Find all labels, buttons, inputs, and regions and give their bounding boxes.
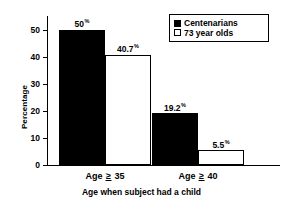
tick-mark [43, 84, 47, 85]
legend-item-73-year-olds: 73 year olds [174, 29, 264, 38]
bar-value-label: 19.2% [164, 103, 186, 112]
tick-mark [43, 30, 47, 31]
tick-label: 50 [31, 25, 40, 34]
bar-73-year-olds-group-0: 40.7% [105, 55, 151, 165]
legend-label-centenarians: Centenarians [184, 19, 238, 28]
filled-square-icon [174, 20, 181, 27]
tick-label: 40 [31, 52, 40, 61]
tick-label: 10 [31, 134, 40, 143]
bar-centenarians-group-0: 50% [59, 30, 105, 165]
legend: Centenarians 73 year olds [169, 14, 269, 42]
tick-mark [43, 165, 47, 166]
bar-value-label: 50% [75, 19, 90, 28]
tick-label: 0 [35, 161, 40, 170]
x-axis-category-label-0: Age ≥ 35 [86, 172, 125, 181]
tick-mark [43, 138, 47, 139]
x-axis-category-label-1: Age ≥ 40 [179, 172, 218, 181]
bar-chart: Percentage 50403020100 50%40.7%19.2%5.5%… [0, 0, 283, 213]
open-square-icon [174, 29, 181, 36]
tick-label: 30 [31, 79, 40, 88]
legend-label-73-year-olds: 73 year olds [184, 29, 233, 38]
x-axis-title: Age when subject had a child [0, 188, 283, 197]
legend-item-centenarians: Centenarians [174, 19, 264, 28]
tick-mark [43, 57, 47, 58]
tick-mark [43, 111, 47, 112]
bar-73-year-olds-group-1: 5.5% [198, 150, 244, 165]
bar-centenarians-group-1: 19.2% [152, 113, 198, 165]
y-axis-title: Percentage [20, 84, 29, 128]
x-axis-line [47, 165, 280, 166]
tick-label: 20 [31, 107, 40, 116]
bar-value-label: 5.5% [212, 140, 229, 149]
bar-value-label: 40.7% [117, 44, 139, 53]
